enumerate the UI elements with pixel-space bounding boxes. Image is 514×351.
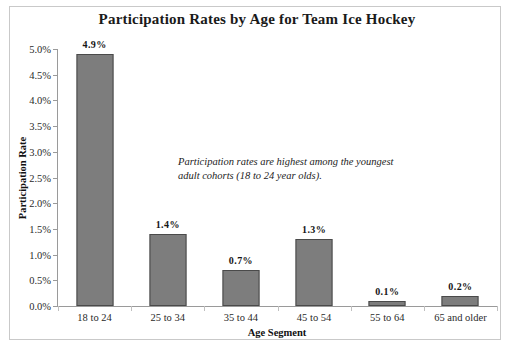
bar-value-label: 0.7%: [229, 255, 253, 266]
bar[interactable]: [296, 239, 333, 306]
bar-value-label: 1.4%: [156, 219, 180, 230]
y-axis-title: Participation Rate: [14, 49, 30, 307]
x-axis-tick-mark: [497, 306, 498, 311]
bar[interactable]: [222, 270, 259, 306]
bar-value-label: 4.9%: [83, 39, 107, 50]
x-axis-tick-label: 65 and older: [434, 312, 487, 323]
bar[interactable]: [149, 234, 186, 306]
x-axis-tick-label: 35 to 44: [224, 312, 258, 323]
bar-group: 4.9%18 to 24: [58, 49, 131, 306]
x-axis-tick-label: 25 to 34: [151, 312, 185, 323]
x-axis-tick-label: 45 to 54: [297, 312, 331, 323]
chart-title: Participation Rates by Age for Team Ice …: [0, 11, 514, 28]
x-axis-tick-mark: [424, 306, 425, 311]
bar[interactable]: [369, 301, 406, 306]
x-axis-tick-label: 55 to 64: [370, 312, 404, 323]
y-axis-title-label: Participation Rate: [17, 137, 28, 220]
x-axis-title: Age Segment: [57, 327, 497, 338]
x-axis-tick-mark: [131, 306, 132, 311]
bar-value-label: 1.3%: [302, 224, 326, 235]
x-axis-tick-mark: [204, 306, 205, 311]
bar-value-label: 0.2%: [448, 281, 472, 292]
x-axis-tick-mark: [278, 306, 279, 311]
bar-group: 0.2%65 and older: [424, 49, 497, 306]
x-axis-tick-mark: [351, 306, 352, 311]
x-axis-tick-label: 18 to 24: [77, 312, 111, 323]
bar[interactable]: [442, 296, 479, 306]
bar[interactable]: [76, 54, 113, 306]
chart-container: Participation Rates by Age for Team Ice …: [0, 0, 514, 351]
x-axis-tick-mark: [58, 306, 59, 311]
bar-value-label: 0.1%: [375, 286, 399, 297]
chart-annotation: Participation rates are highest among th…: [178, 155, 408, 183]
